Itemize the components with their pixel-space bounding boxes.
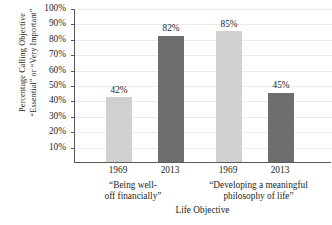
axis-tick: 100% (71, 9, 75, 10)
gridline (75, 55, 332, 56)
y-tick-label: 60% (6, 66, 66, 75)
y-tick-label: 40% (6, 97, 66, 106)
plot-area: 100% 90% 80% 70% 60% 50% (74, 9, 331, 163)
bar-value-label: 42% (110, 86, 127, 95)
category-label-philosophy: “Developing a meaningful philosophy of l… (186, 180, 331, 202)
bar-value-label: 85% (220, 20, 237, 29)
bar-1969-philosophy[interactable]: 85% (216, 31, 242, 162)
axis-tick: 90% (71, 24, 75, 25)
bar-2013-financial[interactable]: 82% (158, 36, 184, 162)
gridline (75, 71, 332, 72)
x-tick-label-2013-financial: 2013 (143, 166, 197, 175)
axis-tick: 60% (71, 71, 75, 72)
category-label-financial-line1: “Being well- (78, 180, 188, 191)
bar-1969-financial[interactable]: 42% (106, 97, 132, 162)
bar-value-label: 45% (272, 81, 289, 90)
gridline (75, 40, 332, 41)
axis-tick: 40% (71, 101, 75, 102)
bar-2013-philosophy[interactable]: 45% (268, 93, 294, 162)
gridline (75, 9, 332, 10)
x-tick-label-1969-philosophy: 1969 (201, 166, 255, 175)
category-label-philosophy-line1: “Developing a meaningful (186, 180, 331, 191)
axis-tick: 30% (71, 117, 75, 118)
axis-tick: 20% (71, 132, 75, 133)
gridline (75, 24, 332, 25)
y-tick-label: 70% (6, 50, 66, 59)
axis-tick: 50% (71, 86, 75, 87)
y-tick-label: 50% (6, 81, 66, 90)
x-tick-label-2013-philosophy: 2013 (253, 166, 307, 175)
y-tick-label: 80% (6, 35, 66, 44)
y-tick-label: 100% (6, 4, 66, 13)
axis-tick: 10% (71, 148, 75, 149)
category-label-financial: “Being well- off financially” (78, 180, 188, 202)
axis-tick: 80% (71, 40, 75, 41)
y-tick-label: 30% (6, 112, 66, 121)
axis-tick: 70% (71, 55, 75, 56)
x-tick-label-1969-financial: 1969 (91, 166, 145, 175)
bar-value-label: 82% (162, 24, 179, 33)
x-axis-title: Life Objective (74, 206, 331, 215)
category-label-philosophy-line2: philosophy of life” (186, 191, 331, 202)
y-tick-label: 20% (6, 127, 66, 136)
y-tick-label: 90% (6, 20, 66, 29)
category-label-financial-line2: off financially” (78, 191, 188, 202)
y-tick-label: 10% (6, 143, 66, 152)
